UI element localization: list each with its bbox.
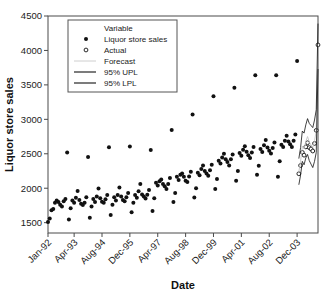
data-point [74, 196, 78, 200]
legend-marker-open-circle [84, 48, 88, 52]
data-point [208, 168, 212, 172]
data-point [241, 148, 245, 152]
data-point [149, 148, 153, 152]
data-point [260, 150, 264, 154]
data-point [295, 59, 299, 63]
data-point [199, 167, 203, 171]
data-point [46, 220, 50, 224]
y-tick-label: 4000 [21, 45, 42, 56]
data-point [130, 210, 134, 214]
data-point [137, 189, 141, 193]
legend: VariableLiquor store salesActualForecast… [68, 20, 177, 92]
data-point [182, 175, 186, 179]
data-point [152, 196, 156, 200]
data-point [255, 173, 259, 177]
x-tick-label: Apr-93 [52, 237, 80, 265]
data-point [63, 197, 67, 201]
data-point [206, 174, 210, 178]
data-point [271, 146, 275, 150]
data-point [72, 201, 76, 205]
data-point [292, 139, 296, 143]
y-tick-label: 3000 [21, 114, 42, 125]
chart-canvas: 1500200025003000350040004500Jan-92Apr-93… [0, 0, 332, 296]
data-point [285, 134, 289, 138]
y-tick-label: 1500 [21, 217, 42, 228]
legend-entry-label: Actual [104, 46, 126, 55]
data-point [173, 191, 177, 195]
data-point [272, 140, 276, 144]
data-point [135, 196, 139, 200]
data-point [164, 187, 168, 191]
x-tick-label: Apr-01 [219, 237, 247, 265]
data-point [194, 186, 198, 190]
data-point [262, 143, 266, 147]
data-point [159, 178, 163, 182]
data-point [227, 163, 231, 167]
x-tick-label: Dec-03 [273, 237, 302, 266]
data-point [67, 218, 71, 222]
data-point [90, 204, 94, 208]
data-point [232, 86, 236, 90]
data-point [220, 156, 224, 160]
data-point [102, 201, 106, 205]
data-point [283, 139, 287, 143]
data-point [252, 145, 256, 149]
data-point [250, 150, 254, 154]
data-point [138, 182, 142, 186]
x-tick-label: Dec-99 [189, 237, 218, 266]
data-point [114, 199, 118, 203]
data-point [278, 159, 282, 163]
data-point [156, 183, 160, 187]
data-point [112, 195, 116, 199]
data-point [245, 150, 249, 154]
data-point [123, 199, 127, 203]
liquor-sales-chart: 1500200025003000350040004500Jan-92Apr-93… [0, 0, 332, 296]
data-point [210, 163, 214, 167]
legend-entry-label: 95% LPL [104, 79, 137, 88]
data-point [218, 161, 222, 165]
data-point [180, 171, 184, 175]
data-point [131, 201, 135, 205]
data-point [76, 189, 80, 193]
data-point [276, 175, 280, 179]
y-tick-label: 2000 [21, 183, 42, 194]
data-point [264, 138, 268, 142]
y-tick-label: 4500 [21, 10, 42, 21]
data-point [187, 175, 191, 179]
data-point [98, 196, 102, 200]
legend-entry-label: 95% UPL [104, 68, 138, 77]
data-point [215, 177, 219, 181]
data-point [69, 206, 73, 210]
data-point [269, 151, 273, 155]
data-point [290, 145, 294, 149]
data-point [231, 152, 235, 156]
data-point [147, 188, 151, 192]
data-point [95, 194, 99, 198]
data-point [234, 179, 238, 183]
legend-entry-label: Liquor store sales [104, 35, 167, 44]
data-point [119, 194, 123, 198]
data-point [117, 186, 121, 190]
series-forecast [299, 46, 318, 171]
series-95-lpl [299, 69, 318, 185]
data-point [126, 191, 130, 195]
x-tick-label: Aug-94 [78, 237, 107, 266]
x-axis-title: Date [171, 279, 195, 291]
data-point [128, 145, 132, 149]
y-tick-label: 2500 [21, 148, 42, 159]
x-tick-label: Dec-95 [106, 237, 135, 266]
data-point [185, 180, 189, 184]
data-point [84, 195, 88, 199]
data-point [191, 113, 195, 117]
data-point [105, 193, 109, 197]
data-point [198, 173, 202, 177]
data-point [83, 201, 87, 205]
limit-path [299, 46, 318, 171]
limit-path [299, 69, 318, 185]
data-point [177, 178, 181, 182]
data-point [65, 150, 69, 154]
data-point [189, 170, 193, 174]
data-point [48, 217, 52, 221]
data-point [316, 43, 320, 47]
data-point [248, 156, 252, 160]
